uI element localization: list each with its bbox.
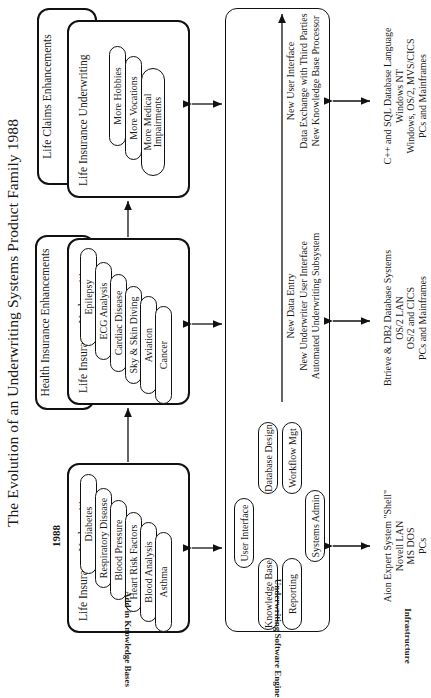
connector-arrows <box>0 0 431 646</box>
diagram-canvas: The Evolution of an Underwriting Systems… <box>0 0 431 646</box>
